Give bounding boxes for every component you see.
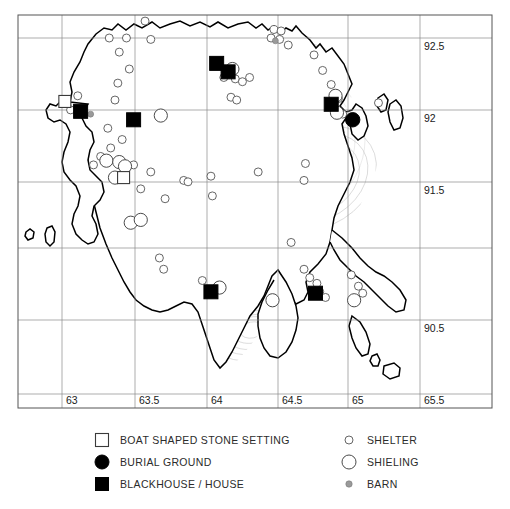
shieling-symbol [100,154,113,167]
boat-shaped-stone-setting-symbol [118,172,130,184]
x-tick-label: 63.5 [139,394,160,406]
blackhouse-house-symbol [204,285,218,299]
shelter-symbol [207,172,215,180]
shelter-symbol [155,254,163,262]
shelter-symbol [359,289,367,297]
burial-ground-symbol [345,113,359,127]
shelter-symbol [347,271,355,279]
series-burial-ground [345,113,359,127]
map-canvas: 6363.56464.56565.5 92.59291.590.5 BOAT S… [0,0,510,509]
shelter-symbol [319,66,327,74]
shelter-symbol [374,99,382,107]
legend-item-label: BLACKHOUSE / HOUSE [120,478,244,490]
x-tick-label: 64 [211,394,223,406]
shelter-symbol [301,159,309,167]
x-tick-label: 65 [352,394,364,406]
shelter-symbol [270,26,278,34]
x-tick-label: 63 [66,394,78,406]
shelter-symbol [327,81,335,89]
shelter-symbol [122,34,130,42]
shelter-symbol [74,92,82,100]
y-tick-label: 92 [424,112,436,124]
shelter-symbol [284,41,292,49]
shelter-symbol [137,185,145,193]
shelter-symbol [198,277,206,285]
legend-item-boat-shaped-stone-setting: BOAT SHAPED STONE SETTING [96,434,290,447]
y-tick-label: 91.5 [424,184,445,196]
distribution-map-figure: 6363.56464.56565.5 92.59291.590.5 BOAT S… [0,0,510,509]
barn-symbol [88,111,94,117]
barn-symbol [272,38,278,44]
legend-item-label: BARN [367,478,398,490]
shelter-symbol [300,176,308,184]
shelter-symbol [310,51,318,59]
shelter-symbol [90,161,98,169]
shelter-symbol [105,34,113,42]
shelter-symbol [147,35,155,43]
shieling-symbol [348,294,361,307]
burial-ground-icon [95,455,109,469]
blackhouse-house-icon [96,478,109,491]
shelter-icon [345,436,353,444]
x-tick-label: 65.5 [424,394,445,406]
blackhouse-house-symbol [308,286,322,300]
shelter-symbol [111,96,119,104]
shelter-symbol [184,178,192,186]
shelter-symbol [114,79,122,87]
shelter-symbol [354,282,362,290]
shelter-symbol [118,136,126,144]
boat-shaped-stone-setting-symbol [59,95,71,107]
blackhouse-house-symbol [221,65,235,79]
shelter-symbol [147,168,155,176]
shelter-symbol [306,274,314,282]
shieling-symbol [266,294,279,307]
y-tick-label: 90.5 [424,322,445,334]
legend-item-shieling: SHIELING [342,455,419,469]
shelter-symbol [107,144,115,152]
barn-icon [346,481,352,487]
shieling-symbol [134,213,147,226]
shelter-symbol [233,96,241,104]
shelter-symbol [208,192,216,200]
shelter-symbol [238,78,246,86]
blackhouse-house-symbol [127,113,141,127]
legend-item-label: BURIAL GROUND [120,456,212,468]
y-tick-label: 92.5 [424,40,445,52]
legend-item-label: SHELTER [367,434,417,446]
shelter-symbol [141,17,149,25]
shelter-symbol [104,124,112,132]
shelter-symbol [125,65,133,73]
blackhouse-house-symbol [74,104,88,118]
shelter-symbol [287,238,295,246]
shelter-symbol [300,265,308,273]
legend-item-label: BOAT SHAPED STONE SETTING [120,434,290,446]
shelter-symbol [246,73,254,81]
legend-item-label: SHIELING [367,456,419,468]
shieling-symbol [118,160,131,173]
shelter-symbol [160,265,168,273]
shelter-symbol [115,48,123,56]
x-tick-label: 64.5 [282,394,303,406]
shieling-symbol [154,109,167,122]
boat-shaped-stone-setting-icon [96,434,109,447]
shelter-symbol [277,27,285,35]
shieling-icon [342,455,356,469]
blackhouse-house-symbol [324,97,338,111]
shelter-symbol [254,168,262,176]
shelter-symbol [161,195,169,203]
